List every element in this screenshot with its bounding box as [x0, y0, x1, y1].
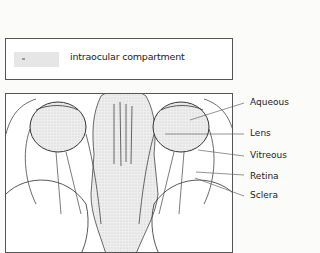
- label-vitreous: Vitreous: [250, 150, 287, 160]
- label-aqueous: Aqueous: [250, 97, 289, 107]
- label-sclera: Sclera: [250, 190, 278, 200]
- orbit-section-illustration: [6, 94, 233, 253]
- legend-label: intraocular compartment: [70, 51, 185, 62]
- label-lens: Lens: [250, 128, 271, 138]
- label-retina: Retina: [250, 171, 279, 181]
- anatomy-diagram: [5, 93, 233, 253]
- intraocular-compartment-swatch: [14, 52, 59, 67]
- swatch-mark: [22, 58, 25, 60]
- legend-box: intraocular compartment: [5, 38, 233, 80]
